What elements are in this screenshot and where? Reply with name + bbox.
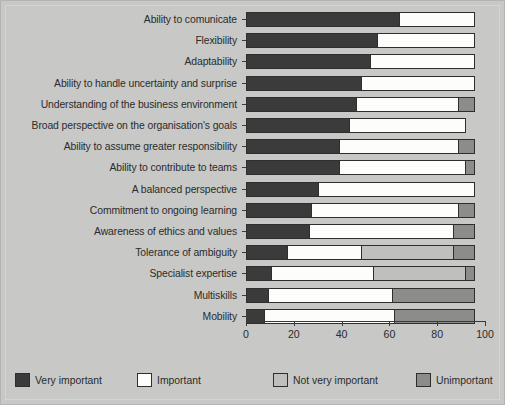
bar-row: Awareness of ethics and values (1, 221, 505, 242)
category-label: Ability to handle uncertainty and surpri… (1, 78, 242, 89)
bar-segment (268, 289, 391, 302)
bar-row: Flexibility (1, 30, 505, 51)
x-axis-tick (342, 321, 343, 326)
bar-segment (339, 161, 465, 174)
bar-segment (247, 77, 361, 90)
x-axis-tick-label: 40 (336, 328, 348, 340)
bar-segment (399, 13, 475, 26)
bar-row: Mobility (1, 306, 505, 327)
x-axis-tick-label: 60 (383, 328, 395, 340)
bar-segment (247, 161, 339, 174)
stacked-bar (246, 203, 475, 218)
bar-segment (349, 119, 465, 132)
legend-label: Very important (35, 375, 102, 386)
bar-segment (247, 140, 339, 153)
bar-segment (311, 204, 458, 217)
x-axis-tick (437, 321, 438, 326)
category-label: Tolerance of ambiguity (1, 247, 242, 258)
stacked-bar (246, 245, 475, 260)
category-label: Ability to assume greater responsibility (1, 141, 242, 152)
bar-segment (458, 98, 475, 111)
bar-segment (458, 204, 475, 217)
legend-item: Not very important (273, 373, 378, 387)
category-label: Multiskills (1, 290, 242, 301)
bar-segment (373, 267, 465, 280)
category-label: Awareness of ethics and values (1, 226, 242, 237)
stacked-bar (246, 182, 475, 197)
category-label: Commitment to ongoing learning (1, 205, 242, 216)
legend-swatch (137, 373, 152, 387)
bar-segment (453, 246, 474, 259)
bar-segment (361, 246, 453, 259)
bar-segment (247, 183, 318, 196)
stacked-bar (246, 160, 475, 175)
bar-segment (465, 267, 474, 280)
legend-swatch (15, 373, 30, 387)
x-axis: 020406080100 (246, 321, 485, 322)
bar-segment (370, 55, 474, 68)
bar-segment (377, 34, 474, 47)
chart-legend: Very importantImportantNot very importan… (1, 363, 505, 397)
bar-row: Commitment to ongoing learning (1, 200, 505, 221)
bar-row: Broad perspective on the organisation's … (1, 115, 505, 136)
bar-segment (356, 98, 458, 111)
bar-segment (318, 183, 474, 196)
bar-segment (287, 246, 360, 259)
category-label: Understanding of the business environmen… (1, 99, 242, 110)
stacked-bar (246, 12, 475, 27)
bar-segment (271, 267, 373, 280)
bar-row: Understanding of the business environmen… (1, 94, 505, 115)
stacked-bar (246, 288, 475, 303)
bar-row: Tolerance of ambiguity (1, 242, 505, 263)
x-axis-tick (389, 321, 390, 326)
bar-segment (247, 98, 356, 111)
bar-row: Adaptability (1, 51, 505, 72)
x-axis-tick-label: 0 (243, 328, 249, 340)
bar-segment (339, 140, 457, 153)
category-label: Broad perspective on the organisation's … (1, 120, 242, 131)
x-axis-tick-label: 80 (431, 328, 443, 340)
stacked-bar-chart: Ability to comunicateFlexibilityAdaptabi… (0, 0, 505, 405)
x-axis-tick (294, 321, 295, 326)
bar-segment (247, 267, 271, 280)
stacked-bar (246, 97, 475, 112)
stacked-bar (246, 139, 475, 154)
bar-segment (465, 161, 474, 174)
category-label: Mobility (1, 311, 242, 322)
plot-area: Ability to comunicateFlexibilityAdaptabi… (1, 9, 505, 339)
stacked-bar (246, 224, 475, 239)
x-axis-tick-label: 100 (476, 328, 494, 340)
bar-row: Ability to contribute to teams (1, 157, 505, 178)
legend-label: Unimportant (436, 375, 493, 386)
x-axis-tick-label: 20 (288, 328, 300, 340)
legend-item: Very important (15, 373, 102, 387)
bar-rows: Ability to comunicateFlexibilityAdaptabi… (1, 9, 505, 327)
category-label: Specialist expertise (1, 268, 242, 279)
bar-segment (309, 225, 454, 238)
bar-row: Specialist expertise (1, 263, 505, 284)
bar-row: Ability to comunicate (1, 9, 505, 30)
bar-segment (392, 289, 475, 302)
bar-row: Ability to handle uncertainty and surpri… (1, 73, 505, 94)
category-label: Ability to comunicate (1, 14, 242, 25)
legend-label: Important (157, 375, 201, 386)
bar-segment (453, 225, 474, 238)
legend-swatch (416, 373, 431, 387)
bar-segment (247, 289, 268, 302)
stacked-bar (246, 76, 475, 91)
bar-segment (247, 204, 311, 217)
bar-row: A balanced perspective (1, 179, 505, 200)
x-axis-tick (485, 321, 486, 326)
stacked-bar (246, 54, 475, 69)
bar-row: Multiskills (1, 284, 505, 305)
bar-segment (247, 246, 287, 259)
category-label: Flexibility (1, 35, 242, 46)
legend-swatch (273, 373, 288, 387)
bar-row: Ability to assume greater responsibility (1, 136, 505, 157)
bar-segment (247, 225, 309, 238)
bar-segment (247, 13, 399, 26)
stacked-bar (246, 118, 466, 133)
bar-segment (247, 55, 370, 68)
category-label: A balanced perspective (1, 184, 242, 195)
legend-item: Important (137, 373, 201, 387)
